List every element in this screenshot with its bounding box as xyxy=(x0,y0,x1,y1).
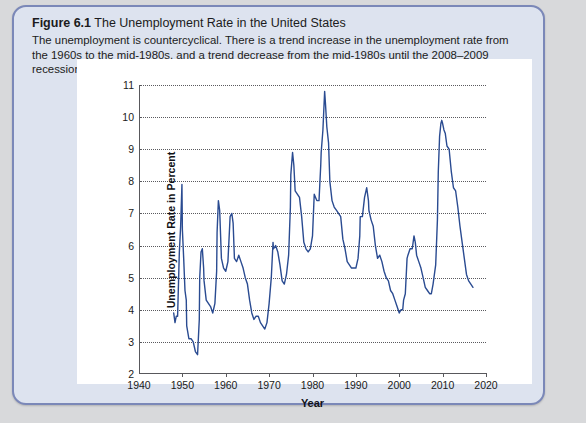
y-tick-label-3: 3 xyxy=(104,336,134,348)
x-tick-label-2010: 2010 xyxy=(431,379,454,391)
x-tick-label-1980: 1980 xyxy=(301,379,324,391)
y-axis-title: Unemployment Rate in Percent xyxy=(165,151,177,308)
figure-box: Figure 6.1 The Unemployment Rate in the … xyxy=(12,5,545,405)
figure-title: The Unemployment Rate in the United Stat… xyxy=(94,16,346,30)
plot-panel: 234567891011 194019501960197019801990200… xyxy=(77,59,532,384)
x-tick-label-1960: 1960 xyxy=(214,379,237,391)
x-tick-label-1950: 1950 xyxy=(171,379,194,391)
x-axis-title: Year xyxy=(301,397,324,409)
y-tick-label-5: 5 xyxy=(104,272,134,284)
x-tick-2020 xyxy=(486,373,487,377)
x-tick-label-2000: 2000 xyxy=(388,379,411,391)
figure-title-line: Figure 6.1 The Unemployment Rate in the … xyxy=(32,15,527,31)
y-tick-label-10: 10 xyxy=(104,111,134,123)
y-tick-label-9: 9 xyxy=(104,143,134,155)
y-tick-label-6: 6 xyxy=(104,240,134,252)
figure-number-label: Figure 6.1 xyxy=(32,16,91,30)
unemployment-rate-line-series xyxy=(139,85,486,374)
series-polyline xyxy=(174,91,473,354)
chart-axes-area: 234567891011 194019501960197019801990200… xyxy=(139,85,486,374)
x-tick-label-1990: 1990 xyxy=(344,379,367,391)
y-tick-label-4: 4 xyxy=(104,304,134,316)
x-tick-label-1940: 1940 xyxy=(127,379,150,391)
y-tick-label-8: 8 xyxy=(104,175,134,187)
y-tick-label-7: 7 xyxy=(104,207,134,219)
y-tick-label-11: 11 xyxy=(104,79,134,91)
x-tick-label-1970: 1970 xyxy=(257,379,280,391)
x-tick-label-2020: 2020 xyxy=(474,379,497,391)
